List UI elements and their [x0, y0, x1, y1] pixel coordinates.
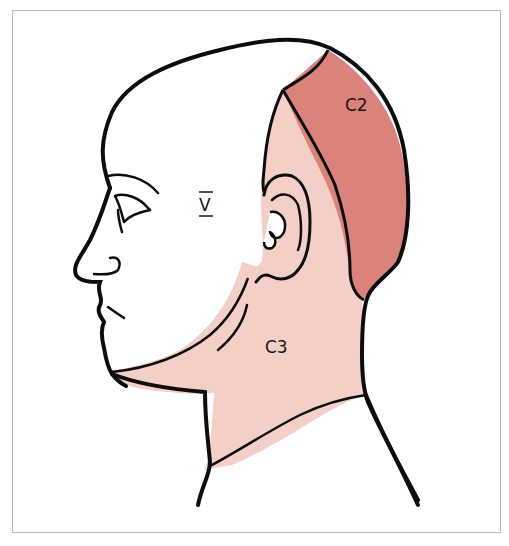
- label-c3: C3: [265, 337, 288, 357]
- nostril: [94, 258, 120, 275]
- eyebrow: [108, 175, 158, 193]
- head-dermatome-diagram: V C2 C3: [0, 0, 509, 546]
- mouth: [108, 307, 124, 318]
- label-v-text: V: [199, 195, 211, 215]
- label-v: V: [199, 192, 213, 216]
- eye: [115, 195, 150, 222]
- neck-back: [366, 395, 418, 505]
- label-c2: C2: [345, 95, 368, 115]
